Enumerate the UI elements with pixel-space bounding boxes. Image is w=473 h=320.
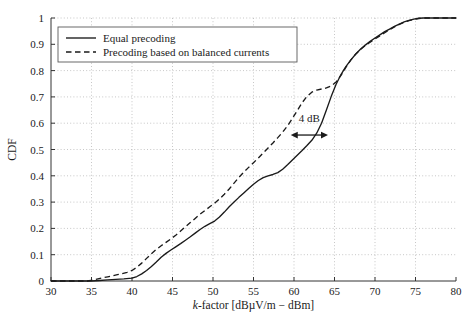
y-tick-label: 0.1 <box>30 249 44 261</box>
y-tick-label: 0.4 <box>30 170 44 182</box>
annotation-label: 4 dB <box>299 112 320 124</box>
x-tick-label: 30 <box>46 285 58 297</box>
x-axis-title: k-factor [dBµV/m − dBm] <box>193 299 314 312</box>
x-tick-label: 65 <box>329 285 341 297</box>
x-tick-label: 75 <box>410 285 422 297</box>
y-tick-label: 0.6 <box>30 117 44 129</box>
y-tick-label: 0.8 <box>30 65 44 77</box>
y-axis-title: CDF <box>6 138 18 160</box>
x-tick-label: 40 <box>127 285 139 297</box>
cdf-chart-figure: 303540455055606570758000.10.20.30.40.50.… <box>0 0 473 320</box>
x-tick-label: 60 <box>289 285 301 297</box>
legend-label-balanced-currents: Precoding based on balanced currents <box>103 46 269 58</box>
y-tick-label: 0.3 <box>30 196 44 208</box>
x-tick-label: 35 <box>86 285 98 297</box>
y-tick-label: 0.2 <box>30 222 44 234</box>
x-tick-label: 50 <box>208 285 220 297</box>
x-tick-label: 80 <box>451 285 463 297</box>
y-tick-label: 1 <box>39 12 45 24</box>
y-tick-label: 0.9 <box>30 38 44 50</box>
y-tick-label: 0.7 <box>30 91 44 103</box>
y-tick-label: 0 <box>39 275 45 287</box>
x-tick-label: 45 <box>167 285 179 297</box>
chart-canvas: 303540455055606570758000.10.20.30.40.50.… <box>0 0 473 320</box>
chart-legend[interactable]: Equal precoding Precoding based on balan… <box>58 27 297 62</box>
x-tick-label: 70 <box>370 285 382 297</box>
x-tick-label: 55 <box>248 285 260 297</box>
y-tick-label: 0.5 <box>30 144 44 156</box>
legend-label-equal-precoding: Equal precoding <box>103 32 176 44</box>
